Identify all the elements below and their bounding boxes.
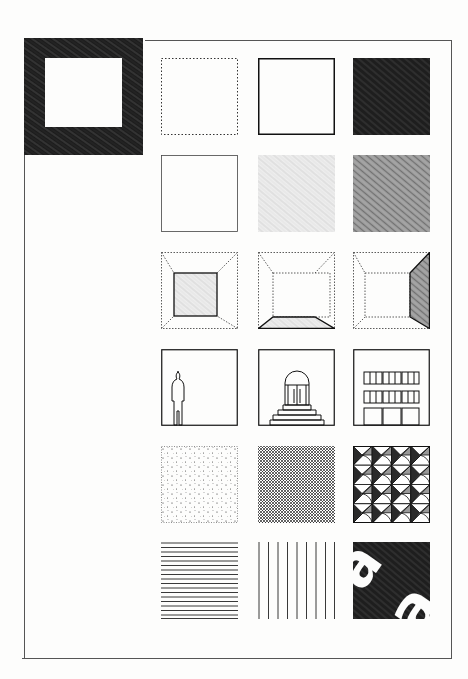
perspective-room-right-wall-shaded	[353, 252, 430, 329]
crosshatch-texture	[258, 446, 335, 523]
frame-right-line	[451, 40, 452, 658]
perspective-room-floor-shaded	[258, 252, 335, 329]
thin-outline-square	[161, 155, 238, 232]
letterform-a-on-dark: a a	[353, 542, 430, 619]
frame-left-line	[24, 155, 25, 659]
medium-texture-square	[353, 155, 430, 232]
stipple-dot-texture	[161, 446, 238, 523]
geometric-triangle-pattern	[353, 446, 430, 523]
light-texture-square	[258, 155, 335, 232]
horizontal-lines-texture	[161, 542, 238, 619]
human-figure-scale	[161, 349, 238, 426]
frame-bottom-line	[22, 658, 452, 659]
dark-filled-square	[353, 58, 430, 135]
thick-dark-frame-square	[24, 38, 143, 155]
building-facade-windows	[353, 349, 430, 426]
frame-top-line	[145, 40, 451, 41]
dotted-outline-square	[161, 58, 238, 135]
vertical-lines-texture	[258, 542, 335, 619]
arched-door-with-steps	[258, 349, 335, 426]
perspective-room-back-wall-shaded	[161, 252, 238, 329]
solid-outline-square	[258, 58, 335, 135]
